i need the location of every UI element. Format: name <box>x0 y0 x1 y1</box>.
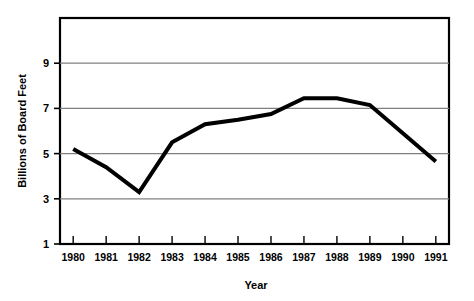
ytick-label-7: 7 <box>43 102 49 114</box>
xtick-label-1990: 1990 <box>391 251 415 263</box>
xtick-label-1989: 1989 <box>358 251 382 263</box>
xtick-label-1985: 1985 <box>226 251 250 263</box>
xtick-label-1991: 1991 <box>424 251 448 263</box>
xtick-label-1988: 1988 <box>325 251 349 263</box>
xtick-label-1981: 1981 <box>94 251 118 263</box>
chart-container: 13579 1980198119821983198419851986198719… <box>0 0 474 301</box>
xtick-label-1982: 1982 <box>127 251 151 263</box>
xtick-label-1986: 1986 <box>259 251 283 263</box>
xtick-label-1980: 1980 <box>62 251 86 263</box>
ytick-label-5: 5 <box>43 148 49 160</box>
ytick-label-3: 3 <box>43 193 49 205</box>
x-axis-title: Year <box>244 279 268 291</box>
ytick-label-1: 1 <box>43 238 49 250</box>
ytick-label-9: 9 <box>43 57 49 69</box>
xtick-label-1984: 1984 <box>193 251 217 263</box>
xtick-label-1983: 1983 <box>160 251 184 263</box>
line-chart: 13579 1980198119821983198419851986198719… <box>0 0 474 301</box>
y-axis-title: Billions of Board Feet <box>16 74 28 188</box>
xtick-label-1987: 1987 <box>292 251 316 263</box>
